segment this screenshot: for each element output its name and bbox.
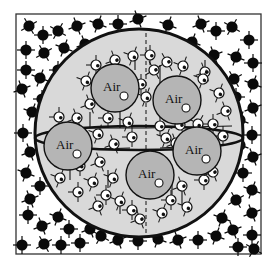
dark-molecule <box>207 22 225 40</box>
dark-molecule <box>243 126 261 144</box>
air-label: Air <box>103 79 121 94</box>
dark-molecule <box>204 224 227 247</box>
air-bubble: Air <box>173 127 221 175</box>
air-bubble: Air <box>153 76 201 124</box>
dark-molecule <box>224 45 247 68</box>
dark-molecule <box>60 220 78 238</box>
dark-molecule <box>224 188 249 213</box>
dark-molecule <box>189 12 212 35</box>
dark-molecule <box>65 14 88 37</box>
air-label: Air <box>185 142 203 157</box>
air-label: Air <box>165 91 183 106</box>
dark-molecule <box>126 7 149 30</box>
dark-molecule <box>240 31 258 49</box>
dark-molecule <box>52 236 70 254</box>
dark-molecule <box>86 12 109 35</box>
dark-molecule <box>240 201 263 224</box>
air-bubble: Air <box>126 151 174 199</box>
bubble-molecule <box>182 104 190 112</box>
dark-molecule <box>34 26 52 44</box>
dark-molecule <box>32 232 57 257</box>
bubble-molecule <box>155 179 163 187</box>
air-label: Air <box>56 137 74 152</box>
air-bubble: Air <box>44 122 92 170</box>
bubble-molecule <box>202 155 210 163</box>
dark-molecule <box>220 15 245 40</box>
dark-molecule <box>242 237 267 262</box>
diagram-canvas: AirAirAirAirAir <box>0 0 277 262</box>
bubble-molecule <box>73 150 81 158</box>
sphere-air-diagram: AirAirAirAirAir <box>0 0 277 262</box>
dark-molecule <box>17 61 35 79</box>
dark-molecule <box>14 161 37 184</box>
dark-molecule <box>14 124 32 142</box>
air-label: Air <box>138 166 156 181</box>
dark-molecule <box>32 41 57 66</box>
dark-molecule <box>229 238 247 256</box>
dark-molecule <box>10 77 33 100</box>
dark-molecule <box>17 41 35 59</box>
dark-molecule <box>240 178 263 201</box>
air-bubble: Air <box>91 64 139 112</box>
dark-molecule <box>71 234 89 252</box>
dark-molecule <box>189 231 207 249</box>
dark-molecule <box>19 206 37 224</box>
dark-molecule <box>244 54 262 72</box>
bubble-molecule <box>120 92 128 100</box>
dark-molecule <box>30 214 53 237</box>
